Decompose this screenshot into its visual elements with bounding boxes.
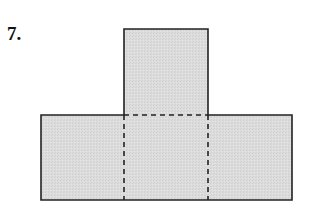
net-figure bbox=[0, 0, 323, 216]
diagram-canvas: 7. bbox=[0, 0, 323, 216]
net-outline bbox=[41, 29, 292, 200]
